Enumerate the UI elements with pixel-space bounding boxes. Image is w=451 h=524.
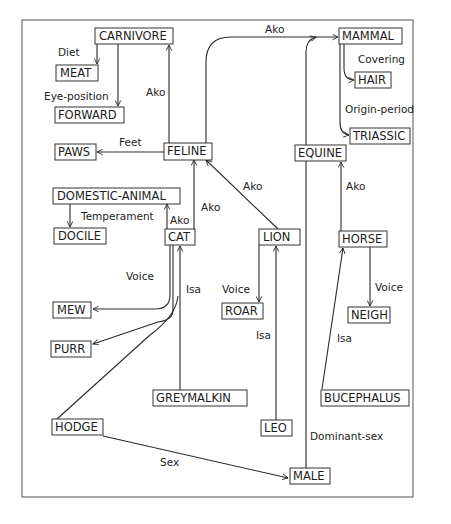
svg-text:PAWS: PAWS [58,145,90,159]
label-dominant-sex: Dominant-sex [310,430,383,442]
node-horse: HORSE [339,231,387,247]
node-paws: PAWS [55,144,96,160]
edge-dominant-sex [306,37,316,468]
svg-text:MEW: MEW [57,303,86,317]
edge-sex [103,436,288,478]
label-sex: Sex [160,456,179,468]
edge-lion-ako-feline [206,160,278,229]
svg-text:FORWARD: FORWARD [58,108,117,122]
label-cat-ako-feline: Ako [201,201,220,213]
label-eye-position: Eye-position [44,90,109,102]
label-horse-voice: Voice [375,281,403,293]
label-cat-voice: Voice [126,270,154,282]
label-feline-ako-carnivore: Ako [146,86,165,98]
svg-text:CARNIVORE: CARNIVORE [99,29,167,43]
node-leo: LEO [261,420,292,436]
svg-text:PURR: PURR [54,342,85,356]
node-cat: CAT [165,229,195,245]
svg-text:ROAR: ROAR [225,304,258,318]
label-greymalkin-isa: Isa [186,283,201,295]
svg-text:MEAT: MEAT [60,66,92,80]
svg-text:BUCEPHALUS: BUCEPHALUS [324,391,401,405]
label-bucephalus-isa: Isa [337,332,352,344]
node-purr: PURR [51,341,91,357]
svg-text:LEO: LEO [264,421,287,435]
node-docile: DOCILE [54,228,106,244]
label-horse-ako-equine: Ako [346,180,365,192]
node-forward: FORWARD [55,107,124,123]
node-hair: HAIR [355,72,391,88]
node-triassic: TRIASSIC [350,128,410,144]
svg-text:LION: LION [263,230,290,244]
svg-text:MAMMAL: MAMMAL [342,29,395,43]
svg-text:GREYMALKIN: GREYMALKIN [156,391,231,405]
svg-text:HORSE: HORSE [342,232,382,246]
edge-bucephalus-isa [322,248,343,389]
node-greymalkin: GREYMALKIN [153,390,247,406]
label-temperament: Temperament [80,210,154,222]
svg-text:TRIASSIC: TRIASSIC [352,129,405,143]
label-lion-ako-feline: Ako [243,180,262,192]
label-feet: Feet [119,136,142,148]
node-feline: FELINE [164,143,212,160]
node-domestic-animal: DOMESTIC-ANIMAL [53,188,180,204]
edge-feline-ako-mammal [206,37,338,143]
label-lion-voice: Voice [222,283,250,295]
svg-text:HODGE: HODGE [55,420,98,434]
node-mammal: MAMMAL [339,28,402,44]
node-meat: MEAT [56,65,98,81]
node-equine: EQUINE [295,145,346,161]
node-neigh: NEIGH [348,307,390,323]
node-male: MALE [290,468,330,484]
edge-covering [344,44,354,80]
node-bucephalus: BUCEPHALUS [321,390,409,406]
svg-text:DOCILE: DOCILE [58,229,101,243]
svg-text:HAIR: HAIR [358,73,386,87]
label-feline-ako-mammal: Ako [265,23,284,35]
svg-text:NEIGH: NEIGH [351,308,388,322]
svg-text:DOMESTIC-ANIMAL: DOMESTIC-ANIMAL [57,189,166,203]
label-diet: Diet [58,46,80,58]
svg-text:CAT: CAT [168,230,191,244]
label-covering: Covering [358,53,405,65]
node-mew: MEW [53,302,91,318]
node-carnivore: CARNIVORE [95,28,173,44]
label-cat-ako-domestic: Ako [170,214,189,226]
node-hodge: HODGE [52,419,103,435]
svg-text:EQUINE: EQUINE [298,146,342,160]
svg-text:FELINE: FELINE [167,144,207,158]
label-origin-period: Origin-period [345,103,414,115]
label-leo-isa: Isa [256,329,271,341]
semantic-network-diagram: Diet Eye-position Feet Ako Ako Dominant-… [0,0,451,524]
svg-text:MALE: MALE [293,469,324,483]
node-roar: ROAR [222,303,263,319]
node-lion: LION [259,229,300,245]
edge-cat-voice-purr [93,245,173,344]
